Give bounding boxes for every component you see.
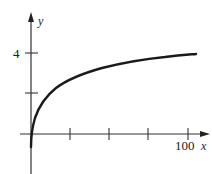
data-curve	[31, 54, 196, 147]
x-axis-arrow-icon	[200, 131, 210, 137]
x-tick-label-100: 100	[175, 138, 195, 153]
y-axis-label: y	[37, 14, 44, 28]
y-tick-label-4: 4	[13, 46, 20, 61]
x-axis-label: x	[200, 139, 207, 153]
y-axis-arrow-icon	[28, 12, 34, 22]
chart: y 4 100 x	[0, 0, 212, 174]
